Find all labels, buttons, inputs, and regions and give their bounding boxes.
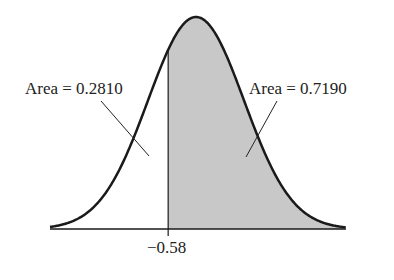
shaded-area [168,17,346,229]
left-area-label: Area = 0.2810 [25,79,123,98]
left-leader-line [101,101,149,156]
normal-curve-chart: Area = 0.2810 Area = 0.7190 −0.58 [0,0,394,280]
right-area-label: Area = 0.7190 [249,79,347,98]
cutoff-tick-label: −0.58 [147,238,186,257]
